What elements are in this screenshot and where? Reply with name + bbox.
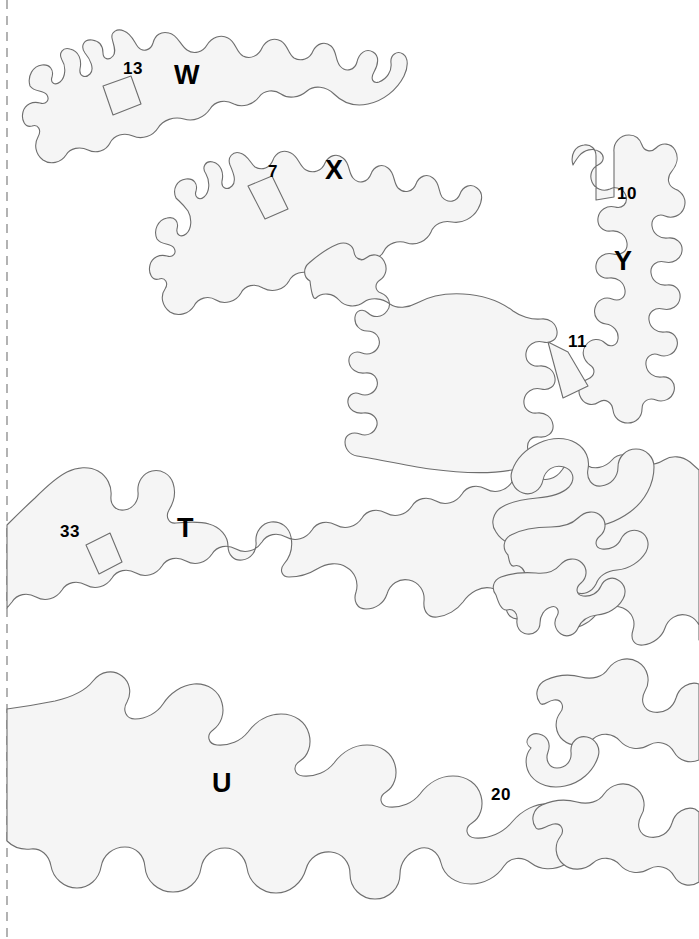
piece-number-33: 33: [60, 523, 80, 540]
puzzle-piece-y[interactable]: [572, 135, 685, 423]
piece-number-7: 7: [268, 163, 278, 180]
piece-number-20: 20: [491, 786, 511, 803]
puzzle-piece-y-left-arm[interactable]: [305, 243, 557, 473]
piece-label-y: Y: [614, 248, 632, 275]
puzzle-piece-u-right-lobe-upper[interactable]: [537, 659, 699, 762]
piece-label-w: W: [174, 62, 199, 89]
puzzle-piece-w[interactable]: [22, 30, 407, 163]
piece-label-x: X: [325, 157, 343, 184]
piece-label-t: T: [177, 515, 194, 542]
piece-label-u: U: [212, 770, 232, 797]
piece-number-10: 10: [617, 185, 637, 202]
puzzle-piece-u-notch: [526, 734, 599, 787]
piece-number-11: 11: [568, 333, 587, 350]
puzzle-pieces-figure: [0, 0, 699, 939]
piece-number-13: 13: [123, 60, 143, 77]
diagram-page: W 13 X 7 Y 10 11 T 33 U 20: [0, 0, 699, 939]
